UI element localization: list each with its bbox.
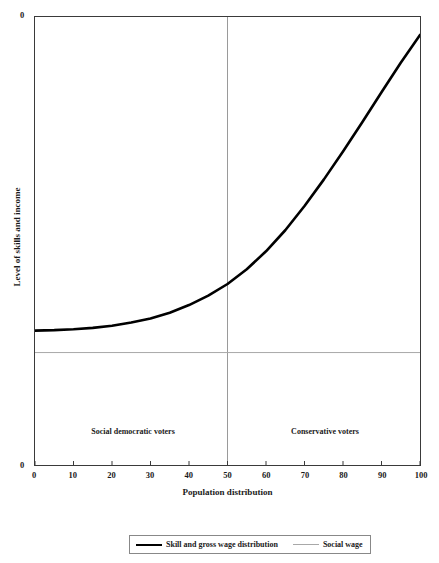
chart-legend: Skill and gross wage distribution Social… <box>129 535 371 554</box>
plot-area: Social democratic voters Conservative vo… <box>34 16 421 466</box>
y-axis-bottom-tick-label: 0 <box>20 460 24 470</box>
x-axis-tick-marks <box>35 461 420 465</box>
x-axis-tick-label: 30 <box>135 470 165 480</box>
legend-label: Skill and gross wage distribution <box>166 540 278 549</box>
chart-figure: 0 0 Level of skills and income Social de… <box>0 0 439 563</box>
x-axis-tick-label: 50 <box>213 470 243 480</box>
x-axis-tick-label: 70 <box>290 470 320 480</box>
x-axis-tick-label: 100 <box>406 470 436 480</box>
y-axis-top-tick-label: 0 <box>20 10 24 20</box>
legend-item-social-wage: Social wage <box>293 540 363 549</box>
x-axis-title: Population distribution <box>34 487 421 497</box>
legend-item-skill-and-gross-wage-distribution: Skill and gross wage distribution <box>136 540 278 549</box>
legend-swatch-thin-line-icon <box>293 544 319 545</box>
legend-swatch-thick-line-icon <box>136 544 162 546</box>
x-axis-tick-label: 10 <box>58 470 88 480</box>
x-axis-tick-label: 80 <box>329 470 359 480</box>
x-axis-tick-label: 0 <box>19 470 49 480</box>
legend-label: Social wage <box>323 540 363 549</box>
x-axis-tick-label: 90 <box>367 470 397 480</box>
annotation-conservative-voters: Conservative voters <box>248 427 402 436</box>
plot-svg <box>35 17 420 465</box>
y-axis-title: Level of skills and income <box>12 157 22 317</box>
annotation-social-democratic-voters: Social democratic voters <box>56 427 210 436</box>
x-axis-tick-label: 60 <box>251 470 281 480</box>
x-axis-tick-label: 40 <box>174 470 204 480</box>
x-axis-tick-label: 20 <box>96 470 126 480</box>
